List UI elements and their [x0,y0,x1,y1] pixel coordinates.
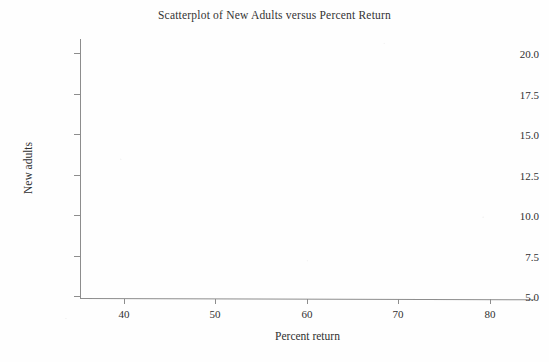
y-axis-title: New adults [22,142,34,194]
x-tick-mark-70 [398,299,399,304]
x-tick-label-80: 80 [470,309,510,320]
scatterplot-figure: Scatterplot of New Adults versus Percent… [0,0,549,362]
x-tick-label-40: 40 [104,309,144,320]
x-axis-title: Percent return [80,330,535,342]
x-tick-mark-80 [490,299,491,304]
chart-title: Scatterplot of New Adults versus Percent… [0,9,549,21]
x-tick-label-60: 60 [287,309,327,320]
plot-area [80,39,535,298]
x-tick-mark-60 [307,299,308,304]
x-tick-mark-40 [124,299,125,304]
x-tick-mark-50 [215,299,216,304]
x-tick-label-50: 50 [195,309,235,320]
x-tick-label-70: 70 [378,309,418,320]
